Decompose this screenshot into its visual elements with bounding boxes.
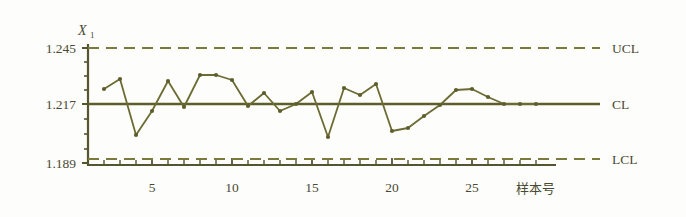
data-point [198, 73, 202, 77]
data-point [166, 79, 170, 83]
data-point [470, 87, 474, 91]
data-point [182, 105, 186, 109]
y-tick-label-ucl: 1.245 [46, 41, 77, 56]
data-point [390, 129, 394, 133]
x-tick-label-25: 25 [465, 180, 479, 195]
x-tick-label-20: 20 [385, 180, 399, 195]
data-point [454, 88, 458, 92]
data-point [518, 102, 522, 106]
data-point [150, 109, 154, 113]
data-point [294, 102, 298, 106]
data-point [358, 93, 362, 97]
data-point [486, 95, 490, 99]
cl-label: CL [612, 97, 629, 112]
data-point [214, 73, 218, 77]
data-point [438, 103, 442, 107]
data-point [118, 77, 122, 81]
data-point [534, 102, 538, 106]
x-tick-label-15: 15 [305, 180, 319, 195]
data-point [230, 78, 234, 82]
data-point [102, 87, 106, 91]
x-tick-label-5: 5 [149, 180, 156, 195]
data-point [374, 82, 378, 86]
control-chart: X 1 1.245 1.217 1.189 [0, 0, 686, 217]
data-point [406, 126, 410, 130]
data-point-markers [102, 73, 538, 139]
data-point [422, 114, 426, 118]
data-point [310, 90, 314, 94]
x-axis-title: 样本号 [516, 181, 555, 196]
y-axis-title: X [77, 23, 87, 38]
ucl-label: UCL [612, 41, 639, 56]
data-point [342, 86, 346, 90]
control-chart-svg: X 1 1.245 1.217 1.189 [0, 0, 686, 217]
y-tick-label-cl: 1.217 [46, 97, 77, 112]
lcl-label: LCL [612, 152, 638, 167]
data-point [134, 133, 138, 137]
y-axis-title-subscript: 1 [90, 30, 95, 40]
data-point [326, 135, 330, 139]
data-series-line [104, 75, 536, 137]
data-point [502, 102, 506, 106]
x-tick-label-10: 10 [225, 180, 239, 195]
data-point [262, 91, 266, 95]
data-point [246, 104, 250, 108]
y-tick-label-lcl: 1.189 [46, 156, 77, 171]
data-point [278, 109, 282, 113]
